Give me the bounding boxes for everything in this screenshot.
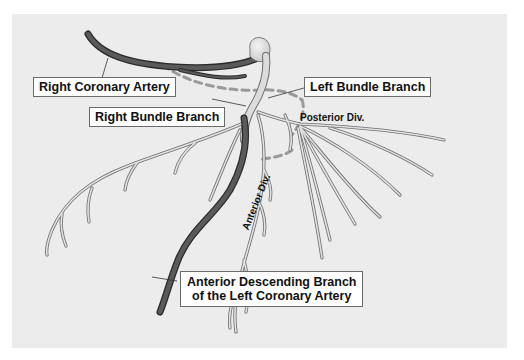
right-bundle-branch-fibers bbox=[47, 122, 246, 255]
label-right-coronary-artery-text: Right Coronary Artery bbox=[39, 80, 170, 94]
posterior-division-fibers bbox=[258, 112, 444, 258]
label-right-bundle-branch: Right Bundle Branch bbox=[89, 107, 225, 127]
label-anterior-descending-line2: of the Left Coronary Artery bbox=[187, 289, 356, 303]
label-right-bundle-branch-text: Right Bundle Branch bbox=[95, 110, 219, 124]
label-posterior-division: Posterior Div. bbox=[300, 112, 364, 123]
label-anterior-descending-branch: Anterior Descending Branch of the Left C… bbox=[180, 271, 363, 307]
label-left-bundle-branch: Left Bundle Branch bbox=[304, 77, 431, 97]
label-left-bundle-branch-text: Left Bundle Branch bbox=[310, 80, 425, 94]
label-right-coronary-artery: Right Coronary Artery bbox=[33, 77, 176, 97]
label-anterior-descending-line1: Anterior Descending Branch bbox=[187, 275, 356, 289]
